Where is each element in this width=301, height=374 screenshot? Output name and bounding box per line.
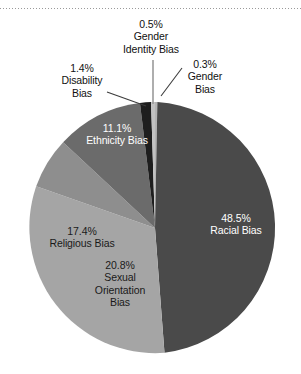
pie-chart-page: 0.5% Gender Identity Bias 0.3% Gender Bi… <box>0 0 301 374</box>
pie-label-sexual-orientation-percent: 20.8% <box>72 259 168 271</box>
pie-label-ethnicity-percent: 11.1% <box>62 122 172 134</box>
pie-label-disability-percent: 1.4% <box>36 62 128 74</box>
pie-label-gender-identity-name-line2: Identity Bias <box>91 43 211 55</box>
pie-label-gender-name-line1: Gender <box>163 70 247 82</box>
pie-label-racial-percent: 48.5% <box>190 212 282 224</box>
pie-label-racial-bias: 48.5% Racial Bias <box>190 212 282 237</box>
pie-label-gender-identity-percent: 0.5% <box>91 18 211 30</box>
pie-label-gender-identity-bias: 0.5% Gender Identity Bias <box>91 18 211 55</box>
pie-chart-graphic <box>0 0 301 374</box>
pie-label-gender-name-line2: Bias <box>163 83 247 95</box>
pie-label-disability-name-line2: Bias <box>36 87 128 99</box>
pie-label-sexual-orientation-bias: 20.8% Sexual Orientation Bias <box>72 259 168 309</box>
pie-label-religious-percent: 17.4% <box>22 225 142 237</box>
pie-label-sexual-orientation-name-line3: Bias <box>72 296 168 308</box>
pie-label-gender-identity-name-line1: Gender <box>91 30 211 42</box>
pie-label-gender-bias: 0.3% Gender Bias <box>163 58 247 95</box>
pie-label-ethnicity-name: Ethnicity Bias <box>62 134 172 146</box>
pie-label-disability-bias: 1.4% Disability Bias <box>36 62 128 99</box>
pie-label-religious-bias: 17.4% Religious Bias <box>22 225 142 250</box>
pie-label-sexual-orientation-name-line1: Sexual <box>72 271 168 283</box>
pie-label-religious-name: Religious Bias <box>22 237 142 249</box>
pie-label-ethnicity-bias: 11.1% Ethnicity Bias <box>62 122 172 147</box>
pie-label-sexual-orientation-name-line2: Orientation <box>72 284 168 296</box>
pie-label-gender-percent: 0.3% <box>163 58 247 70</box>
pie-label-racial-name: Racial Bias <box>190 224 282 236</box>
pie-label-disability-name-line1: Disability <box>36 74 128 86</box>
